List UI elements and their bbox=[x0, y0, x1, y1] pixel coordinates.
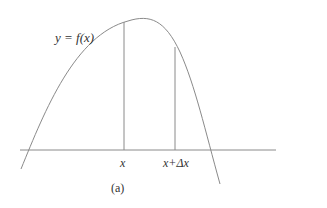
diagram-canvas: y = f(x) x x+Δx (a) bbox=[0, 0, 327, 208]
tick-label-x-plus-dx: x+Δx bbox=[162, 156, 189, 170]
tick-label-x: x bbox=[119, 156, 126, 170]
figure-caption: (a) bbox=[111, 181, 124, 195]
curve-label: y = f(x) bbox=[53, 30, 94, 45]
